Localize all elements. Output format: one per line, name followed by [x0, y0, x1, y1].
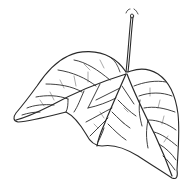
- secondary-veins-right: [134, 81, 177, 170]
- secondary-veins-middle: [86, 86, 136, 142]
- main-veins: [16, 74, 172, 176]
- leaf-drawing: [0, 0, 188, 189]
- leaf-outline: [14, 52, 179, 179]
- leaf-stem: [126, 9, 138, 72]
- secondary-veins-left: [22, 60, 110, 115]
- illustration: [0, 0, 188, 189]
